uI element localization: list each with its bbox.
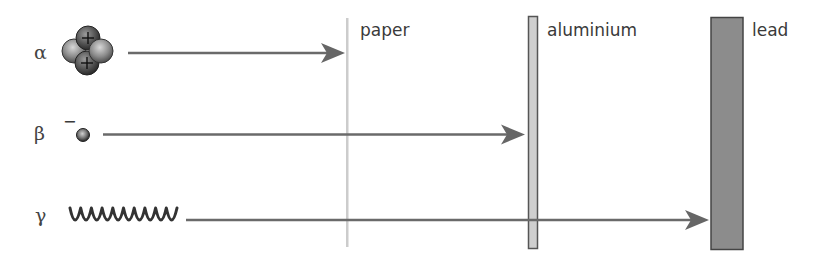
lead-label: lead — [752, 20, 788, 40]
gamma-symbol: γ — [35, 204, 46, 226]
arrow-alpha — [128, 43, 345, 63]
beta-charge-mark: − — [63, 112, 76, 132]
diagram-canvas — [0, 0, 834, 260]
arrow-beta — [103, 125, 525, 145]
alpha-particle-icon — [62, 26, 113, 75]
electron-icon — [77, 129, 90, 142]
paper-label: paper — [360, 20, 409, 40]
barrier-lead — [711, 18, 743, 250]
arrow-gamma — [186, 210, 709, 230]
barrier-paper — [346, 18, 349, 247]
barrier-aluminium — [529, 17, 538, 249]
aluminium-label: aluminium — [547, 20, 637, 40]
wave-icon — [70, 208, 177, 220]
radiation-penetration-diagram: α β γ − paper aluminium lead — [0, 0, 834, 260]
beta-symbol: β — [34, 122, 45, 144]
alpha-symbol: α — [34, 41, 47, 63]
